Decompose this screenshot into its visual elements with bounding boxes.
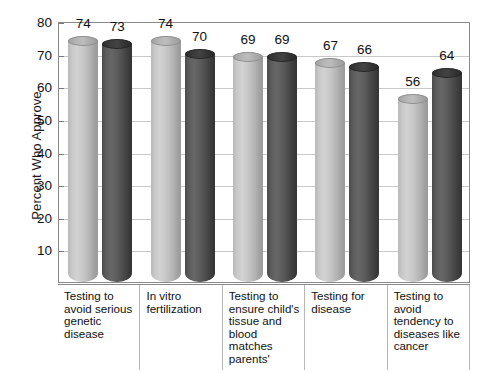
bar-value-label: 70 <box>192 30 207 44</box>
bar[interactable]: 64 <box>432 73 462 282</box>
bar[interactable]: 74 <box>68 41 98 282</box>
category-label: In vitro fertilization <box>140 285 222 370</box>
bar-top-ellipse <box>267 52 297 62</box>
bar-value-label: 69 <box>240 33 255 47</box>
bar[interactable]: 67 <box>315 63 345 282</box>
bar-value-label: 64 <box>439 49 454 63</box>
bar-body <box>315 63 345 282</box>
category-label: Testing to avoid serious genetic disease <box>58 285 140 370</box>
bar-top-ellipse <box>185 49 215 59</box>
y-tick-label: 40 <box>18 146 52 159</box>
bar-body <box>151 41 181 282</box>
category-label: Testing to ensure child's tissue and blo… <box>223 285 305 370</box>
y-axis-tick-labels: 8070605040302010 <box>18 22 52 283</box>
bar-value-label: 74 <box>76 17 91 31</box>
plot-area: 74737470696967665664 <box>58 22 470 283</box>
bar-body <box>398 99 428 282</box>
y-tick-label: 20 <box>18 211 52 224</box>
y-tick-label: 60 <box>18 81 52 94</box>
bar-top-ellipse <box>349 62 379 72</box>
bar-value-label: 73 <box>110 20 125 34</box>
y-tick-label: 30 <box>18 179 52 192</box>
bar-value-label: 67 <box>323 39 338 53</box>
y-tick-label: 50 <box>18 113 52 126</box>
bar-top-ellipse <box>233 52 263 62</box>
bar-value-label: 56 <box>405 75 420 89</box>
bar[interactable]: 73 <box>102 44 132 282</box>
bar-top-ellipse <box>102 39 132 49</box>
bar[interactable]: 69 <box>267 57 297 282</box>
bar-value-label: 66 <box>357 43 372 57</box>
category-label: Testing for disease <box>305 285 387 370</box>
y-tick-label: 80 <box>18 16 52 29</box>
bar-body <box>102 44 132 282</box>
bar-body <box>185 54 215 282</box>
bar[interactable]: 70 <box>185 54 215 282</box>
bar[interactable]: 69 <box>233 57 263 282</box>
bar[interactable]: 74 <box>151 41 181 282</box>
y-tick-label: 70 <box>18 48 52 61</box>
bar-chart: Percent Who Approve 8070605040302010 747… <box>0 0 494 373</box>
bar[interactable]: 66 <box>349 67 379 282</box>
category-label: Testing to avoid tendency to diseases li… <box>388 285 470 370</box>
bar[interactable]: 56 <box>398 99 428 282</box>
category-label-strip: Testing to avoid serious genetic disease… <box>58 284 470 370</box>
bar-value-label: 69 <box>274 33 289 47</box>
bar-top-ellipse <box>151 36 181 46</box>
bar-body <box>432 73 462 282</box>
bar-top-ellipse <box>68 36 98 46</box>
bars-layer: 74737470696967665664 <box>59 23 469 282</box>
bar-body <box>68 41 98 282</box>
bar-body <box>233 57 263 282</box>
bar-body <box>349 67 379 282</box>
bar-value-label: 74 <box>158 17 173 31</box>
bar-body <box>267 57 297 282</box>
y-tick-label: 10 <box>18 244 52 257</box>
